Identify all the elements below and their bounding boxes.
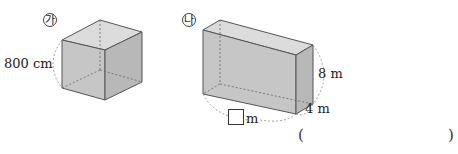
- box-length-label: m: [228, 109, 258, 126]
- figure-a-marker: 가: [43, 13, 57, 27]
- cube-edge-label: 800 cm: [4, 56, 53, 71]
- figure-b-marker: 나: [182, 13, 196, 27]
- box-height-label: 8 m: [318, 66, 343, 81]
- length-blank-box[interactable]: [228, 109, 244, 125]
- box-depth-label: 4 m: [305, 101, 330, 116]
- answer-close-paren: ): [448, 126, 454, 144]
- answer-field[interactable]: [310, 128, 440, 144]
- answer-open-paren: (: [298, 126, 304, 144]
- cube-figure: [53, 20, 142, 100]
